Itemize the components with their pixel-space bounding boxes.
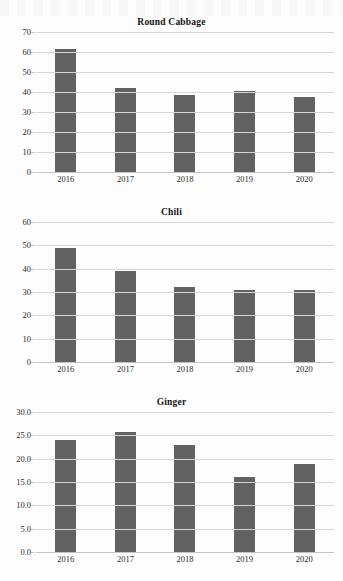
bar (115, 88, 136, 172)
x-tick-label: 2017 (96, 364, 156, 375)
bar (55, 248, 76, 362)
y-tick-mark (31, 435, 35, 436)
x-tick-label: 2016 (36, 174, 96, 185)
y-tick-label: 20.0 (16, 454, 31, 463)
gridline (36, 152, 334, 153)
y-axis-labels: 010203040506070 (0, 32, 31, 172)
y-tick-label: 10 (23, 148, 32, 157)
plot-area-wrapper: 0.05.010.015.020.025.030.0 2016201720182… (0, 412, 343, 559)
y-tick-label: 25.0 (16, 431, 31, 440)
page-canvas: Round Cabbage 010203040506070 2016201720… (0, 0, 343, 581)
gridline (36, 435, 334, 436)
y-tick-mark (31, 315, 35, 316)
bar (294, 290, 315, 362)
y-tick-mark (31, 92, 35, 93)
y-tick-mark (31, 292, 35, 293)
y-tick-mark (31, 52, 35, 53)
y-tick-mark (31, 172, 35, 173)
chart-title: Round Cabbage (0, 16, 343, 28)
x-tick-label: 2016 (36, 364, 96, 375)
scan-bleed-artifact (0, 0, 343, 16)
x-tick-label: 2018 (155, 174, 215, 185)
gridline (36, 412, 334, 413)
axis-baseline (36, 172, 334, 173)
y-tick-label: 20 (23, 311, 32, 320)
plot-area (36, 412, 334, 552)
y-tick-label: 20 (23, 128, 32, 137)
y-tick-mark (31, 362, 35, 363)
x-tick-label: 2019 (215, 174, 275, 185)
gridline (36, 505, 334, 506)
x-tick-label: 2019 (215, 364, 275, 375)
x-tick-label: 2020 (274, 554, 334, 565)
y-tick-mark (31, 269, 35, 270)
x-axis-labels: 20162017201820192020 (36, 174, 334, 185)
gridline (36, 269, 334, 270)
bar (174, 445, 195, 552)
chart-round-cabbage: Round Cabbage 010203040506070 2016201720… (0, 16, 343, 179)
bar-slot (96, 32, 156, 172)
x-tick-label: 2020 (274, 364, 334, 375)
plot-area-wrapper: 010203040506070 20162017201820192020 (0, 32, 343, 179)
y-tick-mark (31, 152, 35, 153)
bar (55, 440, 76, 552)
bar-slot (215, 32, 275, 172)
gridline (36, 529, 334, 530)
y-tick-label: 30.0 (16, 408, 31, 417)
y-tick-label: 60 (23, 218, 32, 227)
bar (115, 271, 136, 362)
y-tick-label: 15.0 (16, 478, 31, 487)
bar (234, 477, 255, 552)
y-tick-mark (31, 112, 35, 113)
gridline (36, 52, 334, 53)
chart-ginger: Ginger 0.05.010.015.020.025.030.0 201620… (0, 396, 343, 559)
y-tick-label: 0.0 (20, 548, 31, 557)
y-tick-label: 30 (23, 288, 32, 297)
x-axis-labels: 20162017201820192020 (36, 364, 334, 375)
y-tick-mark (31, 222, 35, 223)
bar (234, 290, 255, 362)
bar (174, 95, 195, 172)
x-tick-label: 2018 (155, 364, 215, 375)
y-tick-mark (31, 32, 35, 33)
y-tick-mark (31, 505, 35, 506)
x-tick-label: 2017 (96, 174, 156, 185)
bar (174, 287, 195, 362)
y-tick-label: 40 (23, 88, 32, 97)
y-tick-label: 5.0 (20, 524, 31, 533)
y-tick-label: 30 (23, 108, 32, 117)
plot-area-wrapper: 0102030405060 20162017201820192020 (0, 222, 343, 369)
chart-title: Ginger (0, 396, 343, 408)
bar (115, 432, 136, 552)
bar-slot (155, 32, 215, 172)
x-tick-label: 2019 (215, 554, 275, 565)
axis-baseline (36, 552, 334, 553)
x-tick-label: 2020 (274, 174, 334, 185)
chart-chili: Chili 0102030405060 20162017201820192020 (0, 206, 343, 369)
gridline (36, 245, 334, 246)
gridline (36, 222, 334, 223)
gridline (36, 339, 334, 340)
x-tick-label: 2017 (96, 554, 156, 565)
x-axis-labels: 20162017201820192020 (36, 554, 334, 565)
y-tick-mark (31, 412, 35, 413)
y-tick-mark (31, 132, 35, 133)
y-tick-mark (31, 459, 35, 460)
plot-area (36, 222, 334, 362)
y-tick-mark (31, 245, 35, 246)
y-tick-label: 60 (23, 48, 32, 57)
bar-series (36, 32, 334, 172)
gridline (36, 92, 334, 93)
y-tick-label: 70 (23, 28, 32, 37)
y-tick-label: 40 (23, 264, 32, 273)
y-axis-labels: 0.05.010.015.020.025.030.0 (0, 412, 31, 552)
chart-title: Chili (0, 206, 343, 218)
y-tick-mark (31, 552, 35, 553)
y-tick-mark (31, 482, 35, 483)
gridline (36, 292, 334, 293)
y-tick-mark (31, 529, 35, 530)
y-tick-mark (31, 339, 35, 340)
x-tick-label: 2018 (155, 554, 215, 565)
bar (55, 49, 76, 172)
bar-slot (274, 32, 334, 172)
